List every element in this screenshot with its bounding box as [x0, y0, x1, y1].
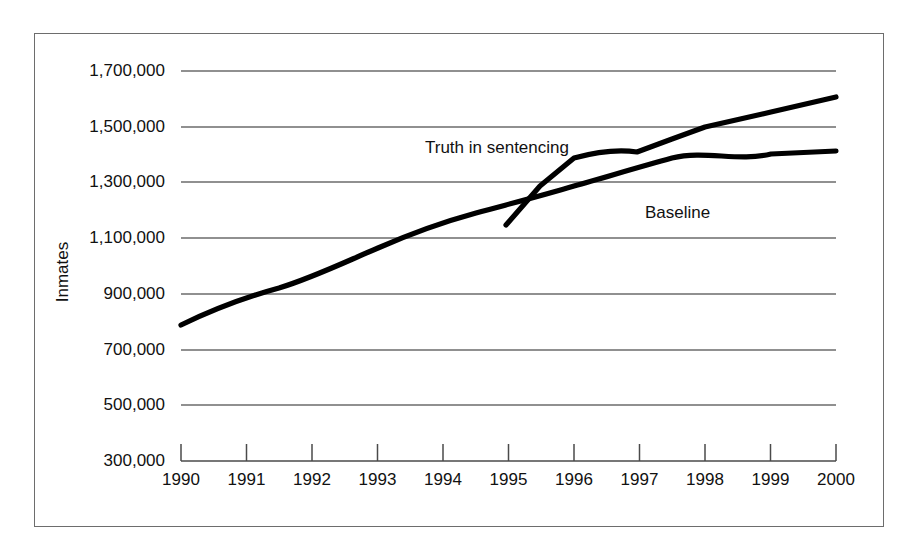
figure-container: 1,700,000 1,500,000 1,300,000 1,100,000 … — [0, 0, 910, 553]
ytick-label-700000: 700,000 — [40, 340, 165, 360]
xtick-label-1999: 1999 — [736, 470, 806, 490]
ytick-label-1500000: 1,500,000 — [40, 117, 165, 137]
x-axis-ticks — [181, 444, 836, 461]
xtick-label-1997: 1997 — [605, 470, 675, 490]
y-axis-title: Inmates — [53, 230, 73, 315]
xtick-label-1994: 1994 — [408, 470, 478, 490]
ytick-label-500000: 500,000 — [40, 395, 165, 415]
series-annotation-baseline: Baseline — [645, 203, 710, 223]
xtick-label-1995: 1995 — [474, 470, 544, 490]
xtick-label-1996: 1996 — [539, 470, 609, 490]
xtick-label-1993: 1993 — [343, 470, 413, 490]
series-annotation-truth-in-sentencing: Truth in sentencing — [425, 138, 569, 158]
xtick-label-1992: 1992 — [277, 470, 347, 490]
xtick-label-1990: 1990 — [146, 470, 216, 490]
xtick-label-1991: 1991 — [212, 470, 282, 490]
ytick-label-1300000: 1,300,000 — [40, 172, 165, 192]
xtick-label-2000: 2000 — [801, 470, 871, 490]
xtick-label-1998: 1998 — [670, 470, 740, 490]
ytick-label-300000: 300,000 — [40, 451, 165, 471]
ytick-label-1700000: 1,700,000 — [40, 61, 165, 81]
